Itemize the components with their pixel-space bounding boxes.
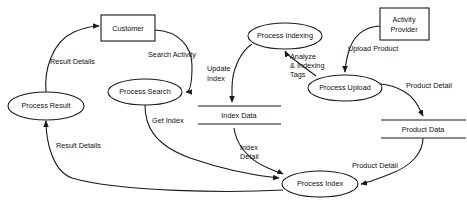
flow-label-upload-product: Upload Product <box>348 44 398 53</box>
data-store-index-data-label: Index Data <box>221 111 257 120</box>
flow-label-analyze-indexing-tags-line1: Analyze <box>290 52 316 61</box>
flow-label-product-detail-to-store: Product Detail <box>406 81 452 90</box>
process-process-search-label: Process Search <box>119 87 171 96</box>
flow-label-analyze-indexing-tags-line2: & Indexing <box>290 61 324 70</box>
process-process-result-label: Process Result <box>21 101 70 110</box>
entity-customer[interactable]: Customer <box>101 15 155 41</box>
data-store-product-data-label: Product Data <box>402 125 446 134</box>
flow-update-index <box>232 44 252 102</box>
process-process-indexing[interactable]: Process Indexing <box>248 23 322 49</box>
flow-label-product-detail-to-index: Product Detail <box>352 161 398 170</box>
dfd-canvas: Index Data Product Data Customer Activit… <box>0 0 467 210</box>
flow-label-get-index: Get Index <box>152 116 184 125</box>
flow-label-index-detail-line2: Detail <box>240 152 259 161</box>
flow-label-search-activity: Search Activity <box>148 50 196 59</box>
process-process-upload-label: Process Upload <box>319 83 371 92</box>
flow-label-update-index-line1: Update <box>207 64 231 73</box>
flow-label-result-details-to-process-result: Result Details <box>56 141 101 150</box>
entity-activity-provider[interactable]: Activity Provider <box>380 8 429 40</box>
process-process-search[interactable]: Process Search <box>108 79 182 105</box>
flow-label-analyze-indexing-tags-line3: Tags <box>290 70 306 79</box>
data-store-product-data: Product Data <box>381 120 466 138</box>
flow-label-update-index-line2: Index <box>207 74 225 83</box>
entity-activity-provider-label-line2: Provider <box>390 25 418 34</box>
flow-label-result-details-to-customer: Result Details <box>50 57 95 66</box>
data-store-index-data: Index Data <box>198 106 281 124</box>
process-process-indexing-label: Process Indexing <box>257 31 313 40</box>
process-process-index[interactable]: Process Index <box>282 171 358 197</box>
entity-customer-label: Customer <box>112 24 144 33</box>
process-process-upload[interactable]: Process Upload <box>308 75 382 101</box>
entity-activity-provider-label-line1: Activity <box>392 15 415 24</box>
process-process-index-label: Process Index <box>297 179 344 188</box>
flow-label-index-detail-line1: Index <box>240 143 258 152</box>
dfd-svg: Index Data Product Data Customer Activit… <box>0 0 467 210</box>
process-process-result[interactable]: Process Result <box>8 92 84 120</box>
